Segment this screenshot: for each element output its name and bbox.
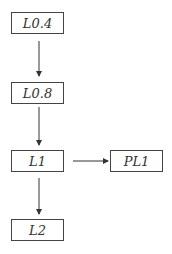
node-label: L0.8 (23, 86, 52, 101)
node-l1: L1 (11, 150, 64, 172)
edges-layer (0, 0, 172, 254)
node-pl1: PL1 (110, 150, 163, 172)
node-l2: L2 (11, 219, 64, 241)
node-label: L1 (29, 154, 46, 169)
node-label: L2 (29, 223, 46, 238)
node-l0-4: L0.4 (11, 12, 64, 34)
node-label: L0.4 (23, 16, 52, 31)
node-l0-8: L0.8 (11, 82, 64, 104)
node-label: PL1 (124, 154, 150, 169)
